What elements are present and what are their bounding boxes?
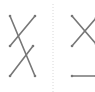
right-panel: [71, 15, 95, 78]
left-endpoint-dot: [34, 75, 37, 78]
right-line-1: [72, 16, 95, 44]
left-panel: [9, 15, 37, 78]
left-endpoint-dot: [9, 15, 12, 18]
line-crossing-diagram: [0, 0, 95, 92]
right-endpoint-dot: [71, 15, 74, 18]
right-endpoint-dot: [71, 75, 74, 78]
left-line-2: [10, 16, 35, 46]
left-endpoint-dot: [9, 45, 12, 48]
right-endpoint-dot: [71, 45, 74, 48]
left-endpoint-dot: [32, 45, 35, 48]
left-line-1: [10, 16, 35, 76]
right-line-2: [72, 18, 95, 46]
left-endpoint-dot: [9, 75, 12, 78]
left-endpoint-dot: [34, 15, 37, 18]
